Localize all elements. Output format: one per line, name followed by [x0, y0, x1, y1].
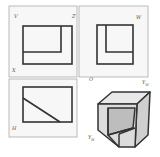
label-yh: YH [88, 135, 94, 143]
label-yw-sub: W [145, 83, 149, 87]
label-z: Z [72, 14, 75, 19]
label-h: H [12, 126, 16, 131]
label-w: W [136, 15, 141, 20]
label-yw: YW [142, 80, 149, 88]
label-v: V [14, 14, 18, 19]
label-x: X [12, 68, 16, 73]
label-yh-sub: H [91, 138, 94, 142]
diagram-svg [0, 0, 160, 157]
front-view-panel [9, 6, 77, 77]
projection-diagram: V Z X W O H YW YH [0, 0, 160, 157]
label-o: O [89, 77, 93, 82]
isometric-view-drawing [98, 92, 150, 147]
